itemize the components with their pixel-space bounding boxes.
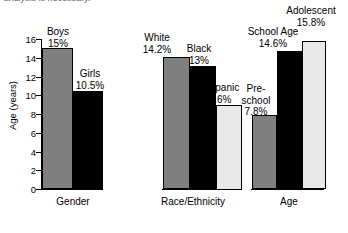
label-black-name: Black [187, 43, 211, 54]
label-hispanic: Hispanic 8.6% [196, 82, 244, 105]
label-hispanic-pct: 8.6% [196, 94, 244, 106]
y-tick-12: 12 [0, 77, 36, 86]
label-preschool-name-line1: Pre- [247, 83, 266, 94]
y-tick-label-2: 2 [2, 166, 36, 175]
bar-girls[interactable] [73, 91, 103, 190]
label-adolescent-name: Adolescent [286, 5, 335, 16]
label-white-pct: 14.2% [134, 44, 180, 56]
bar-adolescent[interactable] [302, 41, 326, 189]
y-tick-6: 6 [0, 133, 36, 142]
group-caption-age: Age [252, 196, 326, 207]
group-caption-race: Race/Ethnicity [156, 196, 230, 207]
y-tick-label-14: 14 [2, 54, 36, 63]
label-school-age-pct: 14.6% [239, 38, 307, 50]
bar-chart-figure: analysis is necessary. 16 14 12 10 8 6 4… [0, 0, 348, 233]
label-boys-name: Boys [47, 26, 69, 37]
label-black-pct: 13% [179, 55, 219, 67]
label-preschool-name-line2: school [239, 95, 273, 107]
label-school-age: School Age 14.6% [239, 26, 307, 49]
group-caption-gender: Gender [42, 196, 104, 207]
label-adolescent: Adolescent 15.8% [276, 5, 346, 28]
label-black: Black 13% [179, 43, 219, 66]
label-boys: Boys 15% [40, 26, 76, 49]
label-girls-name: Girls [80, 68, 101, 79]
y-tick-label-4: 4 [2, 148, 36, 157]
y-tick-0: 0 [0, 189, 36, 198]
y-tick-10: 10 [0, 95, 36, 104]
y-tick-8: 8 [0, 114, 36, 123]
y-tick-2: 2 [0, 170, 36, 179]
bar-white[interactable] [163, 57, 190, 189]
bar-preschool[interactable] [252, 115, 277, 189]
label-preschool: Pre- school 7.8% [239, 83, 273, 118]
bar-school-age[interactable] [277, 51, 302, 189]
label-girls: Girls 10.5% [70, 68, 110, 91]
y-tick-4: 4 [0, 152, 36, 161]
y-tick-label-16: 16 [2, 35, 36, 44]
label-adolescent-pct: 15.8% [276, 17, 346, 29]
clipped-caption-text: analysis is necessary. [4, 0, 154, 3]
label-white-name: White [144, 32, 170, 43]
y-tick-16: 16 [0, 39, 36, 48]
y-tick-label-0: 0 [2, 185, 36, 194]
label-girls-pct: 10.5% [70, 80, 110, 92]
label-boys-pct: 15% [40, 38, 76, 50]
bar-boys[interactable] [42, 48, 73, 189]
label-hispanic-name: Hispanic [201, 82, 239, 93]
label-white: White 14.2% [134, 32, 180, 55]
y-axis-title: Age (years) [7, 71, 18, 141]
label-preschool-pct: 7.8% [239, 106, 273, 118]
y-tick-14: 14 [0, 58, 36, 67]
